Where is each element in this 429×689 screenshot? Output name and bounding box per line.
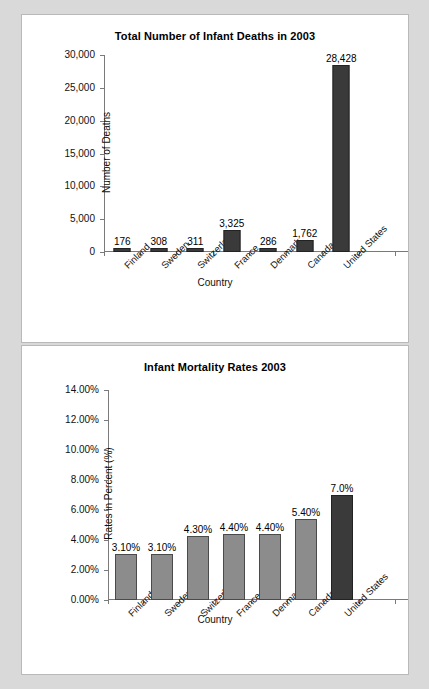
bar-france[interactable]: 4.40%	[223, 534, 245, 600]
x-category-label: France	[232, 263, 240, 271]
y-tick-label: 8.00%	[71, 475, 108, 485]
bar-slot: 3,325France	[214, 55, 251, 252]
bar-slot: 3.10%Finland	[108, 390, 144, 600]
bar-canada[interactable]: 5.40%	[295, 519, 317, 600]
y-tick-label: 6.00%	[71, 505, 108, 515]
x-tick-mark	[108, 600, 109, 604]
bar-slot-empty	[360, 55, 397, 252]
bar-slot: 7.0%United States	[324, 390, 360, 600]
bar-slot: 4.30%Switzerland	[180, 390, 216, 600]
bar-sweden[interactable]: 308	[150, 248, 167, 252]
bar-switzerland[interactable]: 4.30%	[187, 536, 209, 601]
bar-switzerland[interactable]: 311	[187, 248, 204, 252]
y-tick-label: 12.00%	[65, 415, 108, 425]
bar-value-label: 28,428	[326, 54, 357, 64]
bar-value-label: 176	[114, 237, 131, 247]
bar-value-label: 3.10%	[148, 543, 176, 553]
bar-series-infant-deaths: 176Finland308Sweden311Switzerland3,325Fr…	[104, 55, 396, 252]
y-tick-label: 0	[89, 247, 104, 257]
chart-panel-infant-mortality-rates: Infant Mortality Rates 2003 Rates in Per…	[21, 345, 409, 675]
bar-value-label: 308	[150, 237, 167, 247]
x-tick-mark	[395, 600, 396, 604]
y-tick-label: 30,000	[64, 50, 104, 60]
bar-finland[interactable]: 3.10%	[115, 554, 137, 601]
bar-canada[interactable]: 1,762	[296, 240, 313, 252]
bar-value-label: 4.30%	[184, 525, 212, 535]
x-category-label: Canada	[305, 263, 313, 271]
y-tick-label: 0.00%	[71, 595, 108, 605]
bar-slot: 311Switzerland	[177, 55, 214, 252]
x-category-label: United States	[341, 263, 349, 271]
x-tick-mark	[395, 252, 396, 256]
bar-slot: 3.10%Sweden	[144, 390, 180, 600]
bar-france[interactable]: 3,325	[223, 230, 240, 252]
bar-slot: 28,428United States	[323, 55, 360, 252]
bar-slot: 308Sweden	[141, 55, 178, 252]
y-tick-label: 15,000	[64, 149, 104, 159]
x-category-label: Sweden	[159, 263, 167, 271]
x-axis-title-rates: Country	[22, 614, 408, 625]
y-tick-label: 2.00%	[71, 565, 108, 575]
y-tick-label: 5,000	[70, 214, 104, 224]
bar-finland[interactable]: 176	[114, 248, 131, 252]
bar-value-label: 286	[260, 237, 277, 247]
bar-slot: 4.40%Denmark	[252, 390, 288, 600]
y-tick-label: 4.00%	[71, 535, 108, 545]
bar-value-label: 311	[187, 237, 203, 247]
bar-sweden[interactable]: 3.10%	[151, 554, 173, 601]
bar-slot: 1,762Canada	[287, 55, 324, 252]
bar-value-label: 4.40%	[256, 523, 284, 533]
bar-value-label: 7.0%	[331, 484, 354, 494]
x-tick-mark	[104, 252, 105, 256]
x-category-label: Denmark	[268, 263, 276, 271]
bar-series-infant-mortality-rates: 3.10%Finland3.10%Sweden4.30%Switzerland4…	[108, 390, 396, 600]
bar-value-label: 3,325	[219, 219, 244, 229]
bar-slot-empty	[360, 390, 396, 600]
page-canvas: Total Number of Infant Deaths in 2003 Nu…	[0, 0, 429, 689]
x-axis-title-deaths: Country	[22, 277, 408, 288]
bar-slot: 4.40%France	[216, 390, 252, 600]
bar-value-label: 3.10%	[112, 543, 140, 553]
bar-slot: 176Finland	[104, 55, 141, 252]
bar-united-states[interactable]: 28,428	[333, 65, 350, 252]
bar-denmark[interactable]: 4.40%	[259, 534, 281, 600]
bar-value-label: 4.40%	[220, 523, 248, 533]
bar-slot: 5.40%Canada	[288, 390, 324, 600]
y-tick-label: 20,000	[64, 116, 104, 126]
bar-value-label: 5.40%	[292, 508, 320, 518]
plot-area-infant-mortality-rates: Rates in Percent (%) 0.00%2.00%4.00%6.00…	[108, 390, 396, 600]
bar-united-states[interactable]: 7.0%	[331, 495, 353, 600]
bar-denmark[interactable]: 286	[260, 248, 277, 252]
chart-title-infant-mortality-rates: Infant Mortality Rates 2003	[22, 361, 408, 373]
bar-slot: 286Denmark	[250, 55, 287, 252]
y-tick-label: 14.00%	[65, 385, 108, 395]
chart-title-infant-deaths: Total Number of Infant Deaths in 2003	[22, 30, 408, 42]
y-tick-label: 25,000	[64, 83, 104, 93]
x-category-label: Finland	[122, 263, 130, 271]
y-tick-label: 10,000	[64, 181, 104, 191]
plot-area-infant-deaths: Number of Deaths 05,00010,00015,00020,00…	[104, 55, 396, 252]
y-tick-label: 10.00%	[65, 445, 108, 455]
x-category-label: Switzerland	[195, 263, 203, 271]
chart-panel-infant-deaths: Total Number of Infant Deaths in 2003 Nu…	[21, 14, 409, 343]
bar-value-label: 1,762	[292, 229, 317, 239]
